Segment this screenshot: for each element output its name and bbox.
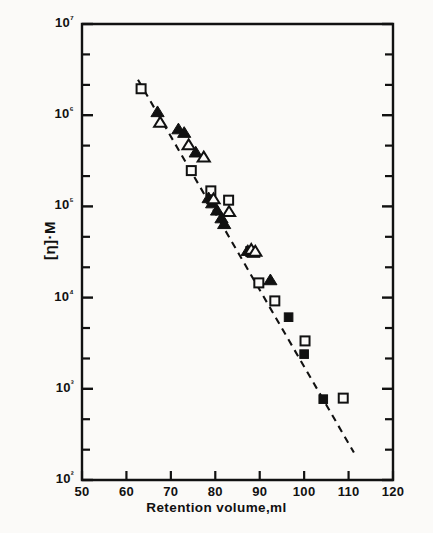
x-tick-label: 90 <box>238 484 282 499</box>
data-point-open-triangle <box>154 117 166 127</box>
x-axis-ticks <box>82 471 393 480</box>
x-tick-label: 70 <box>149 484 193 499</box>
y-tick-label: 10⁵ <box>0 196 74 212</box>
data-point-filled-square <box>300 350 309 359</box>
y-tick-label: 10⁶ <box>0 105 74 121</box>
y-tick-label: 10⁴ <box>0 288 74 304</box>
data-point-filled-square <box>319 395 328 404</box>
data-point-open-square <box>301 336 310 345</box>
x-axis-label: Retention volume,ml <box>0 500 433 515</box>
x-tick-label: 100 <box>282 484 326 499</box>
chart-svg <box>0 0 433 533</box>
data-point-open-square <box>137 84 146 93</box>
data-point-filled-triangle <box>264 274 277 285</box>
data-point-open-square <box>187 166 196 175</box>
data-point-open-square <box>254 278 263 287</box>
axis-frame <box>82 24 393 480</box>
x-tick-label: 50 <box>60 484 104 499</box>
y-axis-major-ticks <box>82 24 93 480</box>
x-tick-label: 110 <box>327 484 371 499</box>
calibration-chart-figure: 10² 10³ 10⁴ 10⁵ 10⁶ 10⁷ 50 60 70 80 90 1… <box>0 0 433 533</box>
data-point-open-triangle <box>183 139 195 149</box>
data-point-filled-square <box>284 313 293 322</box>
data-point-open-square <box>339 394 348 403</box>
x-tick-label: 60 <box>104 484 148 499</box>
y-axis-label: [η]·M <box>41 206 58 276</box>
data-markers <box>137 84 348 403</box>
data-point-open-square <box>270 296 279 305</box>
right-axis-ticks <box>382 24 393 480</box>
y-tick-label: 10⁷ <box>0 14 74 30</box>
x-tick-label: 120 <box>371 484 415 499</box>
x-tick-label: 80 <box>193 484 237 499</box>
data-point-open-triangle <box>223 206 235 216</box>
y-tick-label: 10³ <box>0 379 74 395</box>
data-point-open-square <box>224 196 233 205</box>
